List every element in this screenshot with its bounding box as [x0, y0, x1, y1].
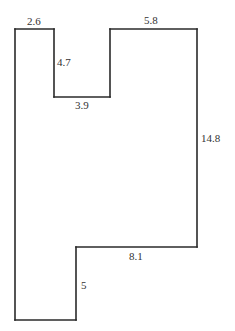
label-right: 14.8	[201, 132, 221, 144]
shape-edges	[15, 29, 197, 320]
label-step-horizontal: 8.1	[129, 250, 143, 262]
label-step-vertical: 5	[81, 279, 87, 291]
label-top-left: 2.6	[27, 15, 41, 27]
side-labels: 2.6 4.7 3.9 5.8 14.8 8.1 5	[27, 14, 221, 291]
label-top-right: 5.8	[144, 14, 158, 26]
label-notch-bottom: 3.9	[75, 99, 89, 111]
polygon-diagram: 2.6 4.7 3.9 5.8 14.8 8.1 5	[0, 0, 235, 331]
label-notch-left: 4.7	[57, 56, 71, 68]
